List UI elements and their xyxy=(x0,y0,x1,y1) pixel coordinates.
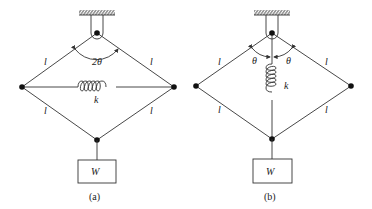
member-label: l xyxy=(44,105,47,116)
spring-label: k xyxy=(94,94,99,105)
member-bottom-right xyxy=(272,86,351,139)
angle-label: 2θ xyxy=(92,56,102,67)
pin-joint-top xyxy=(94,30,100,36)
pin-joint-left xyxy=(193,83,199,89)
figure-caption: (a) xyxy=(89,191,100,203)
member-label: l xyxy=(218,56,221,67)
spring-icon xyxy=(266,33,276,139)
weight-label: W xyxy=(266,166,276,177)
member-label: l xyxy=(218,104,221,115)
pin-joint-right xyxy=(171,84,177,90)
member-label: l xyxy=(325,56,328,67)
figure-caption: (b) xyxy=(264,191,276,203)
member-top-right xyxy=(97,33,174,87)
member-top-left xyxy=(196,33,272,86)
member-label: l xyxy=(325,104,328,115)
member-label: l xyxy=(44,56,47,67)
member-top-right xyxy=(272,33,351,86)
member-top-left xyxy=(22,33,97,87)
angle-label-right: θ xyxy=(286,55,291,66)
figure-b: θ θ k l l l l W (b) xyxy=(193,10,354,203)
member-label: l xyxy=(150,56,153,67)
member-label: l xyxy=(150,105,153,116)
member-bottom-left xyxy=(196,86,272,139)
pin-joint-left xyxy=(19,84,25,90)
spring-label: k xyxy=(284,80,289,91)
weight-label: W xyxy=(91,166,101,177)
member-bottom-right xyxy=(97,87,174,140)
pin-joint-top xyxy=(269,30,275,36)
pin-joint-right xyxy=(348,83,354,89)
angle-label-left: θ xyxy=(252,55,257,66)
figure-a: 2θ k l l l l W (a) xyxy=(19,10,177,203)
member-bottom-left xyxy=(22,87,97,140)
spring-icon xyxy=(22,81,174,91)
